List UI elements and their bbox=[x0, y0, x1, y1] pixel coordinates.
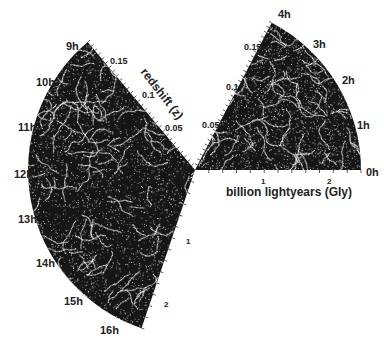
right-z-label-0.15: 0.15 bbox=[244, 42, 262, 52]
ra-label-14h: 14h bbox=[36, 257, 55, 269]
left-z-label-0.15: 0.15 bbox=[110, 56, 128, 66]
ra-label-3h: 3h bbox=[313, 38, 326, 50]
right-wedge-shape bbox=[195, 23, 361, 170]
ra-label-13h: 13h bbox=[18, 213, 37, 225]
ra-label-10h: 10h bbox=[36, 76, 55, 88]
right-z-label-0.1: 0.1 bbox=[226, 82, 239, 92]
left-z-label-0.05: 0.05 bbox=[165, 123, 183, 133]
ra-label-15h: 15h bbox=[64, 295, 83, 307]
cone-diagram: 0h 1h 2h 3h 4h 0.05 0.1 0.15 1 2 billion… bbox=[0, 0, 388, 347]
ra-label-2h: 2h bbox=[342, 74, 355, 86]
ra-label-1h: 1h bbox=[357, 119, 370, 131]
distance-axis-label: billion lightyears (Gly) bbox=[226, 185, 352, 199]
ra-label-0h: 0h bbox=[366, 166, 379, 178]
left-distance-tick-2: 2 bbox=[164, 300, 169, 309]
ra-label-9h: 9h bbox=[66, 40, 79, 52]
ra-label-16h: 16h bbox=[100, 324, 119, 336]
ra-label-12h: 12h bbox=[14, 168, 33, 180]
right-wedge bbox=[188, 21, 376, 181]
ra-label-11h: 11h bbox=[18, 121, 37, 133]
ra-label-4h: 4h bbox=[278, 8, 291, 20]
right-z-label-0.05: 0.05 bbox=[202, 120, 220, 130]
left-distance-tick-1: 1 bbox=[186, 237, 191, 246]
